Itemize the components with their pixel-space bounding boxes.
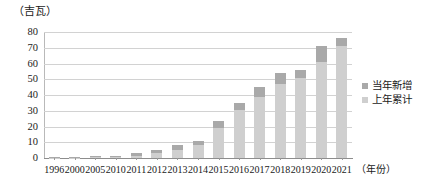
bar-segment-new bbox=[234, 103, 245, 110]
bar-segment-cumulative bbox=[275, 84, 286, 158]
bar-segment-cumulative bbox=[316, 62, 327, 158]
chart-screenshot: （吉瓦） 80706050403020100 19962000200520102… bbox=[0, 0, 442, 189]
y-axis-tick-label: 20 bbox=[2, 122, 38, 132]
bar-segment-new bbox=[110, 156, 121, 157]
bar-segment-new bbox=[316, 46, 327, 62]
x-axis-tickmark bbox=[95, 158, 96, 160]
y-axis-tick-label: 10 bbox=[2, 137, 38, 147]
x-axis-tickmark bbox=[136, 158, 137, 160]
x-axis-title: （年份） bbox=[356, 164, 396, 175]
gridline bbox=[44, 48, 352, 49]
x-axis-tickmark bbox=[321, 158, 322, 160]
x-axis-tickmark bbox=[54, 158, 55, 160]
chart-legend: 当年新增上年累计 bbox=[362, 79, 440, 107]
x-axis-tickmark bbox=[342, 158, 343, 160]
bar-segment-new bbox=[131, 153, 142, 155]
y-axis-tick-label: 70 bbox=[2, 43, 38, 53]
legend-item-label: 上年累计 bbox=[372, 94, 412, 105]
bar-segment-cumulative bbox=[254, 97, 265, 158]
x-axis-tickmark bbox=[75, 158, 76, 160]
bar-segment-new bbox=[336, 38, 347, 46]
plot-area bbox=[44, 32, 352, 158]
x-axis-tickmark bbox=[260, 158, 261, 160]
legend-swatch-icon bbox=[362, 97, 368, 103]
bar-segment-cumulative bbox=[172, 150, 183, 158]
x-axis-tickmark bbox=[116, 158, 117, 160]
legend-item[interactable]: 当年新增 bbox=[362, 79, 440, 92]
y-axis-tick-label: 0 bbox=[2, 153, 38, 163]
gridline bbox=[44, 64, 352, 65]
bar-segment-new bbox=[213, 121, 224, 128]
bar-segment-new bbox=[275, 73, 286, 84]
x-axis-tickmark bbox=[280, 158, 281, 160]
bar-segment-cumulative bbox=[295, 78, 306, 158]
x-axis-tickmark bbox=[177, 158, 178, 160]
bar-segment-new bbox=[254, 87, 265, 96]
y-axis-tick-label: 30 bbox=[2, 106, 38, 116]
legend-item[interactable]: 上年累计 bbox=[362, 93, 440, 106]
bar-segment-cumulative bbox=[336, 46, 347, 158]
y-axis-unit-label: （吉瓦） bbox=[13, 5, 57, 18]
bar-segment-new bbox=[193, 141, 204, 145]
x-axis-tickmark bbox=[157, 158, 158, 160]
legend-swatch-icon bbox=[362, 83, 368, 89]
bar-segment-new bbox=[151, 150, 162, 153]
y-axis-tick-label: 80 bbox=[2, 27, 38, 37]
x-axis-tickmark bbox=[301, 158, 302, 160]
x-axis-tickmark bbox=[198, 158, 199, 160]
legend-item-label: 当年新增 bbox=[372, 80, 412, 91]
x-axis-tickmark bbox=[219, 158, 220, 160]
gridline bbox=[44, 32, 352, 33]
y-axis-tick-label: 60 bbox=[2, 59, 38, 69]
x-axis-tick-label: 2021 bbox=[325, 164, 359, 175]
bar-segment-cumulative bbox=[234, 110, 245, 158]
x-axis-tickmark bbox=[239, 158, 240, 160]
bar-segment-new bbox=[172, 145, 183, 150]
y-axis-tick-label: 50 bbox=[2, 74, 38, 84]
bar-segment-new bbox=[295, 70, 306, 78]
y-axis-tick-label: 40 bbox=[2, 90, 38, 100]
bar-segment-cumulative bbox=[213, 128, 224, 158]
bar-segment-cumulative bbox=[193, 145, 204, 158]
